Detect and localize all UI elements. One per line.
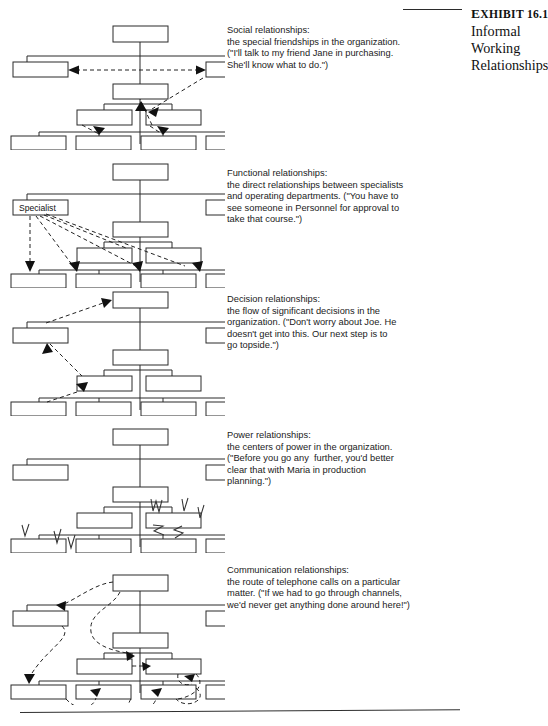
desc-functional-line-1: the direct relationships between special… bbox=[227, 180, 432, 192]
desc-decision-line-3: doesn't get into this. Our next step is … bbox=[227, 329, 432, 341]
desc-decision-line-2: organization. ("Don't worry about Joe. H… bbox=[227, 317, 432, 329]
heading-functional: Functional relationships: bbox=[227, 168, 432, 180]
exhibit-title: Informal Working Relationships bbox=[471, 23, 544, 75]
desc-decision-line-1: the flow of significant decisions in the bbox=[227, 306, 432, 318]
exhibit-number: EXHIBIT 16.1 bbox=[471, 6, 544, 22]
description-decision: Decision relationships: the flow of sign… bbox=[227, 294, 432, 352]
desc-communication-line-3: we'd never get anything done around here… bbox=[227, 600, 432, 612]
exhibit-number-rest: XHIBIT 16.1 bbox=[480, 8, 548, 21]
heading-social: Social relationships: bbox=[227, 25, 432, 37]
exhibit-divider-rule bbox=[403, 9, 462, 10]
chart-power bbox=[0, 425, 225, 553]
desc-functional-line-2: and operating departments. ("You have to bbox=[227, 191, 432, 203]
desc-decision-line-4: go topside.") bbox=[227, 340, 432, 352]
desc-power-line-3: clear that with Maria in production bbox=[227, 465, 432, 477]
desc-functional-line-4: take that course.") bbox=[227, 214, 432, 226]
desc-power-line-2: ("Before you go any further, you'd bette… bbox=[227, 453, 432, 465]
desc-communication-line-1: the route of telephone calls on a partic… bbox=[227, 577, 432, 589]
description-communication: Communication relationships: the route o… bbox=[227, 565, 432, 611]
chart-functional: Specialist bbox=[0, 160, 225, 288]
heading-decision: Decision relationships: bbox=[227, 294, 432, 306]
desc-social-line-1: the special friendships in the organizat… bbox=[227, 37, 432, 49]
chart-decision bbox=[0, 288, 225, 416]
description-functional: Functional relationships: the direct rel… bbox=[227, 168, 432, 226]
chart-social bbox=[0, 22, 225, 150]
description-power: Power relationships: the centers of powe… bbox=[227, 430, 432, 488]
exhibit-title-line-2: Working bbox=[471, 40, 544, 57]
desc-power-line-4: planning.") bbox=[227, 476, 432, 488]
exhibit-title-block: EXHIBIT 16.1 Informal Working Relationsh… bbox=[471, 6, 544, 75]
desc-communication-line-2: matter. ("If we had to go through channe… bbox=[227, 588, 432, 600]
exhibit-number-initial: E bbox=[471, 6, 480, 21]
heading-power: Power relationships: bbox=[227, 430, 432, 442]
description-social: Social relationships: the special friend… bbox=[227, 25, 432, 71]
desc-social-line-2: ("I'll talk to my friend Jane in purchas… bbox=[227, 48, 432, 60]
exhibit-title-line-1: Informal bbox=[471, 23, 544, 40]
specialist-box-label: Specialist bbox=[19, 203, 56, 213]
exhibit-title-line-3: Relationships bbox=[471, 57, 544, 74]
bottom-divider-rule bbox=[20, 709, 460, 713]
desc-social-line-3: She'll know what to do.") bbox=[227, 60, 432, 72]
desc-power-line-1: the centers of power in the organization… bbox=[227, 442, 432, 454]
heading-communication: Communication relationships: bbox=[227, 565, 432, 577]
desc-functional-line-3: see someone in Personnel for approval to bbox=[227, 203, 432, 215]
chart-communication bbox=[0, 560, 225, 705]
